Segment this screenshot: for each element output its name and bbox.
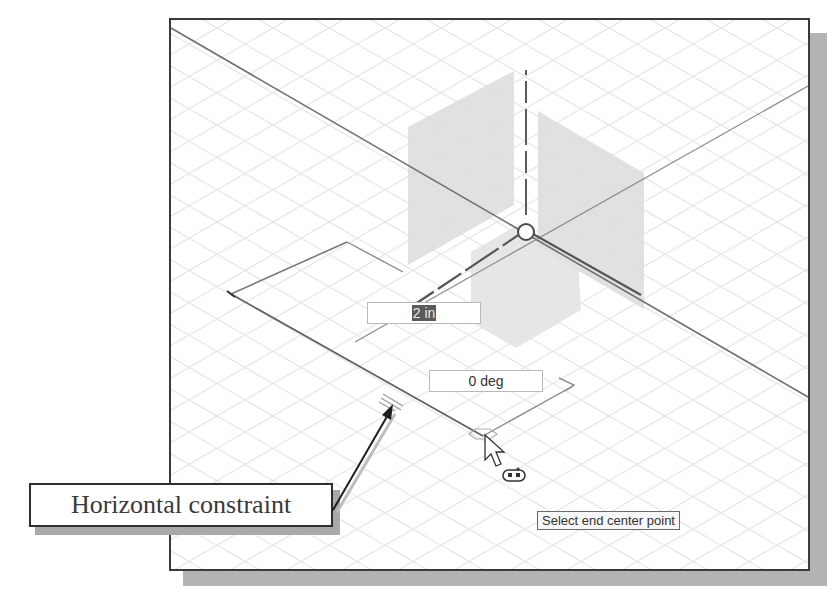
callout-arrow-icon bbox=[0, 0, 837, 598]
